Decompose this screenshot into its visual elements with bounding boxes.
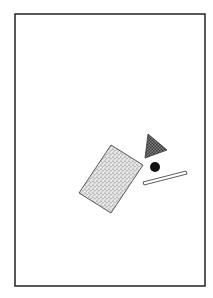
thin-bar (143, 171, 187, 185)
black-circle (150, 162, 160, 172)
composition-canvas (0, 0, 213, 298)
crosshatch-triangle (145, 134, 167, 158)
stippled-rectangle (79, 145, 143, 213)
